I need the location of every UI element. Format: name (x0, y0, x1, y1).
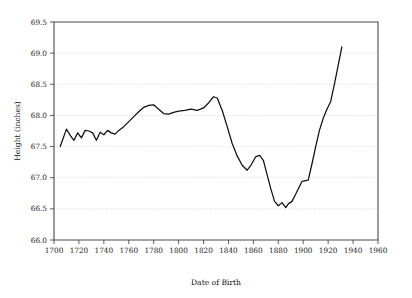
x-tick-label: 1700 (45, 246, 64, 255)
y-tick-label: 69.5 (31, 18, 48, 27)
line-chart: 1700172017401760178018001820184018601880… (0, 0, 412, 298)
grid-lines (54, 53, 378, 209)
y-tick-label: 67.5 (31, 142, 48, 151)
y-tick-label: 68.0 (31, 111, 48, 120)
x-tick-label: 1740 (95, 246, 114, 255)
y-axis-title: Height (inches) (13, 101, 22, 161)
data-series-group (60, 47, 342, 208)
x-tick-label: 1860 (244, 246, 263, 255)
x-axis-title: Date of Birth (191, 278, 241, 287)
y-tick-label: 68.5 (31, 80, 48, 89)
y-tick-label: 67.0 (31, 173, 48, 182)
x-tick-label: 1840 (219, 246, 238, 255)
x-tick-label: 1760 (119, 246, 138, 255)
x-tick-label: 1820 (194, 246, 213, 255)
x-tick-label: 1800 (169, 246, 188, 255)
y-tick-label: 66.0 (31, 236, 48, 245)
plot-frame (54, 22, 378, 240)
x-tick-label: 1940 (344, 246, 363, 255)
x-axis-ticks: 1700172017401760178018001820184018601880… (45, 240, 388, 255)
chart-figure: 1700172017401760178018001820184018601880… (0, 0, 412, 298)
x-tick-label: 1900 (294, 246, 313, 255)
x-tick-label: 1720 (70, 246, 89, 255)
x-tick-label: 1780 (144, 246, 163, 255)
x-tick-label: 1880 (269, 246, 288, 255)
x-tick-label: 1920 (319, 246, 338, 255)
axis-frame (54, 22, 378, 240)
data-line (60, 47, 342, 208)
y-axis-ticks: 66.066.567.067.568.068.569.069.5 (31, 18, 54, 245)
y-tick-label: 69.0 (31, 49, 48, 58)
y-tick-label: 66.5 (31, 204, 48, 213)
x-tick-label: 1960 (369, 246, 388, 255)
